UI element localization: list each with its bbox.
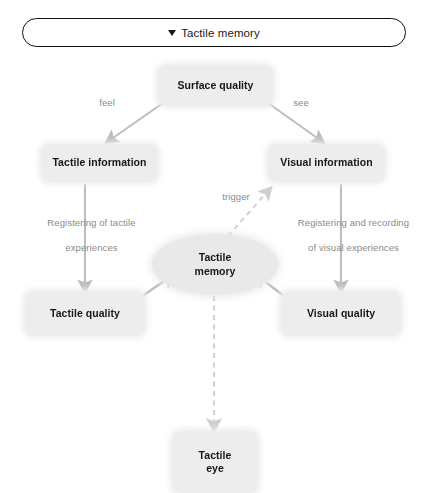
node-surface-quality[interactable]: Surface quality [158,65,273,106]
edge-label-feel: feel [84,97,130,110]
node-tactile-eye-line1: Tactile [199,449,232,461]
node-surface-quality-label: Surface quality [177,79,253,92]
diagram-canvas: Surface quality Tactile information Visu… [0,56,428,464]
caret-down-icon [168,30,176,36]
tactile-memory-dropdown[interactable]: Tactile memory [22,18,406,47]
edge-label-trigger: trigger [210,191,262,204]
edge-label-registering-visual-line1: Registering and recording [298,217,409,228]
edge-label-registering-tactile-line2: experiences [65,242,117,253]
edge-label-registering-visual-line2: of visual experiences [308,242,399,253]
node-tactile-memory-line1: Tactile [199,251,231,263]
edge-label-registering-visual: Registering and recording of visual expe… [272,204,424,268]
node-tactile-eye[interactable]: Tactile eye [172,431,258,493]
dropdown-label: Tactile memory [181,27,260,39]
node-tactile-information-label: Tactile information [52,156,146,169]
node-visual-quality-label: Visual quality [307,307,375,320]
node-visual-quality[interactable]: Visual quality [281,291,401,336]
node-visual-information-label: Visual information [280,156,372,169]
edge-label-registering-tactile: Registering of tactile experiences [16,204,156,268]
node-tactile-memory[interactable]: Tactile memory [152,234,278,295]
node-tactile-eye-line2: eye [206,462,224,474]
node-tactile-memory-line2: memory [195,265,236,277]
node-tactile-memory-label: Tactile memory [195,251,236,278]
edge-label-see: see [278,97,324,110]
edge-label-registering-tactile-line1: Registering of tactile [47,217,135,228]
node-tactile-quality[interactable]: Tactile quality [25,291,145,336]
node-tactile-quality-label: Tactile quality [50,307,120,320]
dropdown-inner: Tactile memory [168,27,260,39]
node-tactile-eye-label: Tactile eye [199,449,232,475]
node-visual-information[interactable]: Visual information [268,144,385,182]
node-tactile-information[interactable]: Tactile information [41,144,158,182]
